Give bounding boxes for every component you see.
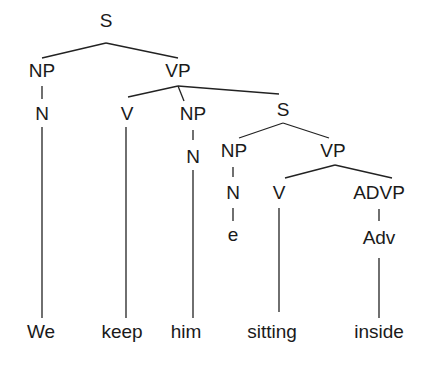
node-advp: ADVP	[353, 182, 405, 203]
edge-vp1-s2	[178, 86, 279, 94]
node-him: him	[171, 321, 202, 342]
node-s1: S	[100, 10, 113, 31]
node-n3: N	[226, 182, 240, 203]
node-we: We	[27, 321, 55, 342]
node-s2: S	[277, 99, 290, 120]
edge-s2-np3	[239, 123, 283, 138]
node-keep: keep	[101, 321, 142, 342]
edge-vp3-v3	[285, 165, 335, 178]
node-vp3: VP	[320, 140, 345, 161]
node-v3: V	[273, 182, 286, 203]
node-np3: NP	[221, 140, 247, 161]
node-n2: N	[186, 146, 200, 167]
edge-s2-vp3	[283, 123, 329, 138]
node-vp1: VP	[165, 60, 190, 81]
node-n1: N	[35, 103, 49, 124]
node-e: e	[228, 224, 239, 245]
node-np2: NP	[180, 103, 206, 124]
node-inside: inside	[354, 321, 404, 342]
edge-s1-np1	[42, 43, 106, 58]
edge-s1-vp1	[106, 43, 178, 58]
node-np1: NP	[29, 60, 55, 81]
tree-edges	[42, 43, 392, 318]
edge-vp1-v1	[128, 86, 178, 97]
edge-vp3-advp	[335, 165, 392, 178]
node-sitting: sitting	[247, 321, 297, 342]
edge-vp1-np2	[178, 86, 184, 101]
node-v1: V	[121, 103, 134, 124]
syntax-tree-diagram: SNPVPNVNPNSNPVPNVADVPeAdvWekeephimsittin…	[0, 0, 432, 365]
tree-nodes: SNPVPNVNPNSNPVPNVADVPeAdvWekeephimsittin…	[27, 10, 405, 342]
node-adv: Adv	[363, 227, 396, 248]
